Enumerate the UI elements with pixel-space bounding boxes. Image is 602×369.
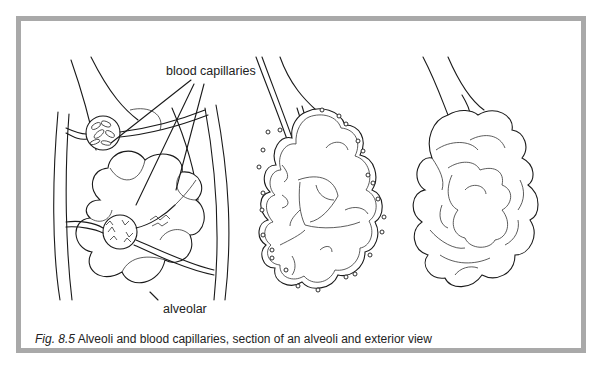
alveoli-diagram xyxy=(0,0,602,369)
exterior-view-panel xyxy=(413,57,538,287)
figure-caption: Fig. 8.5 Alveoli and blood capillaries, … xyxy=(35,332,432,346)
blood-capillaries-label: blood capillaries xyxy=(166,64,256,78)
figure-caption-text: Alveoli and blood capillaries, section o… xyxy=(78,332,432,346)
alveolar-label: alveolar xyxy=(163,302,207,316)
figure-number: Fig. 8.5 xyxy=(35,332,75,346)
capillary-network-panel xyxy=(54,57,229,300)
section-view-panel xyxy=(256,57,386,292)
